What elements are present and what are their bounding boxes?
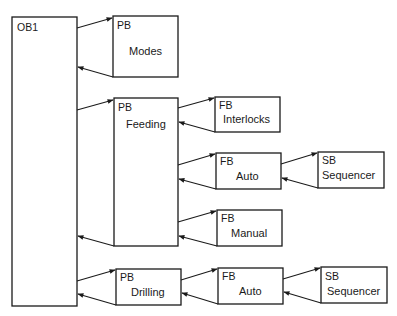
block-fb-manual: FB Manual: [217, 210, 282, 246]
block-ob1-frame: [12, 17, 77, 306]
block-call-diagram: OB1 PB Modes PB Feeding FB Interlocks FB…: [0, 0, 397, 316]
block-pb-modes-type: PB: [117, 19, 131, 31]
arrow-return-icon: [179, 122, 215, 132]
block-sb-feeding-sequencer-type: SB: [322, 154, 336, 166]
block-fb-feeding-auto-type: FB: [220, 155, 233, 167]
arrow-return-icon: [78, 67, 113, 77]
block-sb-drilling-sequencer-name: Sequencer: [327, 285, 381, 297]
block-pb-drilling: PB Drilling: [116, 269, 181, 305]
block-pb-feeding-type: PB: [118, 101, 132, 113]
block-fb-drilling-auto: FB Auto: [218, 268, 283, 304]
arrow-call-icon: [77, 100, 113, 110]
block-ob1: OB1: [12, 17, 77, 306]
block-ob1-type: OB1: [17, 21, 38, 33]
arrow-call-icon: [181, 269, 217, 280]
block-fb-interlocks: FB Interlocks: [215, 97, 280, 132]
block-fb-interlocks-name: Interlocks: [223, 113, 271, 125]
block-fb-feeding-auto: FB Auto: [216, 153, 281, 189]
arrow-call-icon: [281, 153, 317, 164]
arrow-call-icon: [77, 18, 112, 28]
arrow-return-icon: [179, 179, 216, 189]
arrow-call-icon: [178, 98, 214, 108]
block-sb-drilling-sequencer-type: SB: [325, 270, 339, 282]
block-fb-drilling-auto-name: Auto: [239, 285, 262, 297]
block-pb-feeding: PB Feeding: [114, 98, 178, 246]
block-fb-interlocks-type: FB: [219, 99, 232, 111]
arrow-call-icon: [283, 268, 320, 279]
arrow-return-icon: [78, 294, 116, 305]
block-pb-modes: PB Modes: [113, 16, 178, 77]
block-sb-feeding-sequencer: SB Sequencer: [318, 152, 384, 188]
arrow-return-icon: [182, 293, 218, 304]
block-pb-modes-name: Modes: [129, 45, 163, 57]
block-sb-feeding-sequencer-name: Sequencer: [322, 169, 376, 181]
block-fb-manual-name: Manual: [231, 227, 267, 239]
arrow-call-icon: [77, 270, 115, 281]
block-pb-drilling-type: PB: [120, 271, 134, 283]
arrow-return-icon: [284, 292, 321, 303]
block-sb-drilling-sequencer: SB Sequencer: [321, 267, 387, 303]
arrow-return-icon: [282, 178, 318, 188]
block-fb-manual-type: FB: [221, 212, 234, 224]
block-fb-drilling-auto-type: FB: [222, 270, 235, 282]
arrow-call-icon: [178, 211, 216, 222]
block-pb-drilling-name: Drilling: [131, 286, 165, 298]
block-fb-feeding-auto-name: Auto: [236, 170, 259, 182]
arrow-return-icon: [179, 236, 217, 246]
arrow-return-icon: [78, 236, 114, 246]
arrow-call-icon: [178, 154, 215, 165]
block-pb-feeding-name: Feeding: [126, 118, 166, 130]
